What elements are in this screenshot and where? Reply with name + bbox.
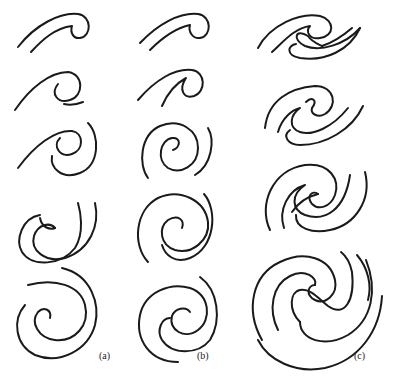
stage-a1 <box>18 14 89 52</box>
stage-b2 <box>138 70 203 106</box>
column-a-label: (a) <box>99 350 110 361</box>
stage-a5 <box>17 268 96 358</box>
column-a <box>15 14 96 358</box>
spiral-diagram <box>0 0 394 376</box>
stage-c3 <box>266 165 367 232</box>
column-b <box>138 14 217 362</box>
stage-a4 <box>19 203 96 263</box>
stage-a2 <box>15 72 83 110</box>
stage-b1 <box>140 14 209 50</box>
stage-c2 <box>265 86 363 145</box>
column-b-label: (b) <box>197 350 209 361</box>
stage-c1 <box>258 15 360 58</box>
column-c <box>253 15 382 369</box>
stage-a3 <box>18 123 96 175</box>
column-c-label: (c) <box>354 350 365 361</box>
stage-b3 <box>142 123 211 178</box>
stage-b4 <box>138 194 212 262</box>
